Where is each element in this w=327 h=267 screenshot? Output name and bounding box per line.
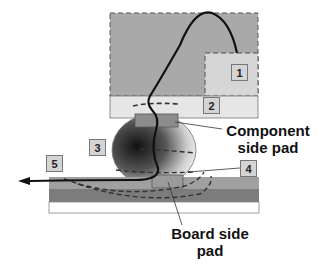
label-line: pad xyxy=(165,242,255,259)
marker-2: 2 xyxy=(203,97,220,114)
board-side-pad-label: Board side pad xyxy=(165,225,255,259)
leader-4 xyxy=(188,168,240,172)
arrow-head xyxy=(18,177,30,185)
label-line: Component xyxy=(218,122,318,139)
label-line: Board side xyxy=(165,225,255,242)
marker-3: 3 xyxy=(89,139,106,156)
marker-4: 4 xyxy=(240,160,257,177)
board-side-pad xyxy=(152,175,183,188)
marker-5: 5 xyxy=(46,155,63,172)
layer-2 xyxy=(110,96,258,118)
board-bottom-layer xyxy=(49,202,259,213)
marker-1: 1 xyxy=(231,64,248,81)
label-line: side pad xyxy=(218,139,318,156)
component-side-pad-label: Component side pad xyxy=(218,122,318,156)
